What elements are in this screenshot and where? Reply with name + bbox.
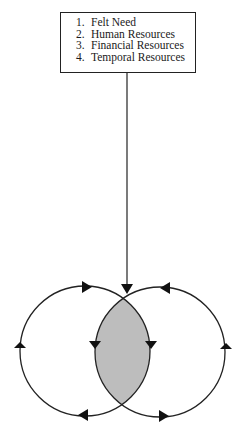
overlap-region [95,287,225,417]
arrow-left-icon [160,282,170,294]
cycle-diagram [0,0,246,436]
arrow-up-icon [14,342,26,348]
arrow-up-icon [220,343,232,349]
arrow-right-icon [159,410,169,422]
arrow-left-icon [78,409,88,421]
arrow-down-icon [121,284,133,294]
arrow-right-icon [82,281,92,293]
